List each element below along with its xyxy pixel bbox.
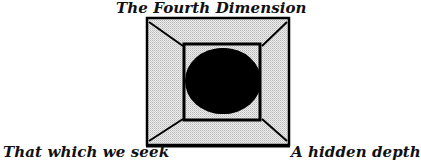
sphere-right-bulge: [187, 48, 261, 114]
label-a-hidden-depth: A hidden depth: [291, 145, 421, 160]
label-that-which-we-seek: That which we seek: [3, 145, 169, 160]
